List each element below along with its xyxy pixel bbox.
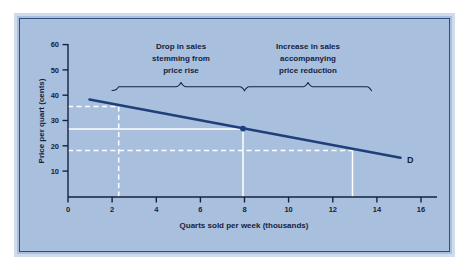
svg-text:16: 16 [417, 205, 425, 214]
svg-text:6: 6 [198, 205, 202, 214]
svg-text:Increase in sales: Increase in sales [276, 42, 341, 51]
svg-text:2: 2 [110, 205, 114, 214]
x-axis-tick-labels: 0 2 4 6 8 10 12 14 16 [66, 205, 425, 214]
svg-text:50: 50 [51, 66, 59, 75]
increase-in-sales-annotation: Increase in sales accompanying price red… [276, 42, 341, 75]
svg-text:stemming from: stemming from [152, 54, 210, 63]
svg-text:price reduction: price reduction [279, 66, 337, 75]
svg-text:price rise: price rise [163, 66, 199, 75]
svg-text:accompanying: accompanying [280, 54, 336, 63]
y-axis-tick-labels: 60 50 40 30 20 10 [51, 40, 59, 176]
svg-text:8: 8 [242, 205, 246, 214]
x-axis-title: Quarts sold per week (thousands) [180, 221, 309, 230]
svg-text:40: 40 [51, 91, 59, 100]
svg-text:0: 0 [66, 205, 70, 214]
svg-text:20: 20 [51, 142, 59, 151]
svg-text:12: 12 [329, 205, 337, 214]
y-axis-ticks [63, 45, 69, 172]
svg-text:14: 14 [373, 205, 382, 214]
drop-in-sales-annotation: Drop in sales stemming from price rise [152, 42, 210, 75]
chart-figure: D 60 50 40 30 20 10 [0, 0, 469, 270]
drop-in-sales-brace [112, 83, 245, 91]
y-axis-title: Price per quart (cents) [37, 78, 46, 163]
svg-text:60: 60 [51, 40, 59, 49]
svg-text:10: 10 [51, 167, 59, 176]
svg-text:Drop in sales: Drop in sales [156, 42, 207, 51]
increase-in-sales-brace [245, 83, 372, 91]
chart-plot: D 60 50 40 30 20 10 [0, 0, 469, 270]
svg-text:30: 30 [51, 116, 59, 125]
demand-curve-label: D [407, 155, 414, 165]
x-axis-ticks [68, 197, 421, 203]
svg-text:10: 10 [284, 205, 292, 214]
equilibrium-point-marker [240, 126, 246, 132]
svg-text:4: 4 [154, 205, 159, 214]
guide-lines [68, 107, 353, 197]
